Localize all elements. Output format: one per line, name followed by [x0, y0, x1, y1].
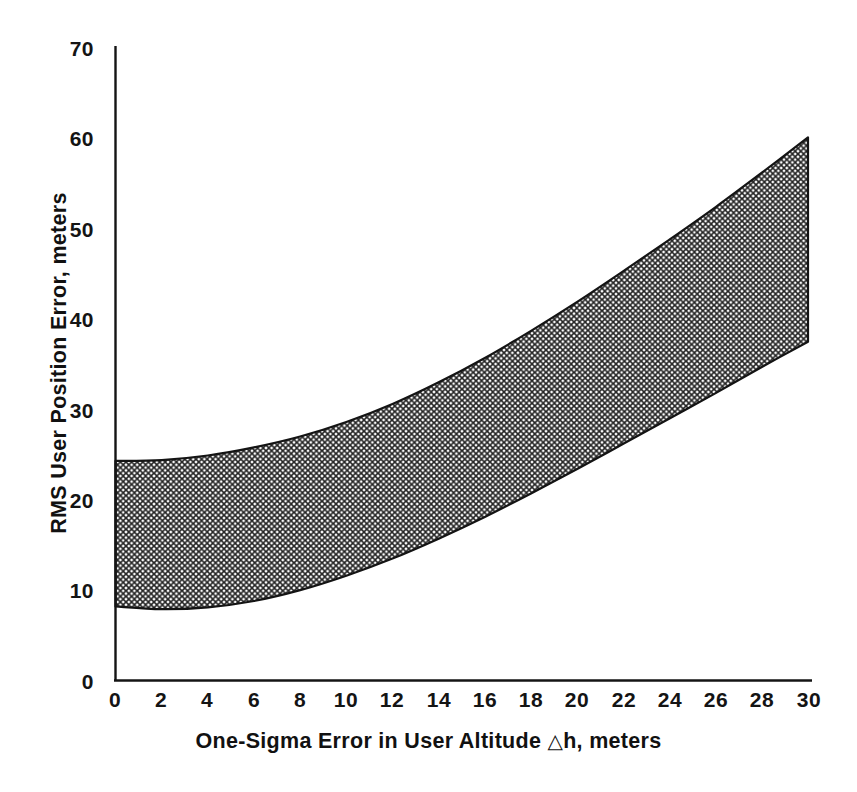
x-axis-title: One-Sigma Error in User Altitude △h, met…: [0, 729, 857, 754]
y-axis-title: RMS User Position Error, meters: [47, 43, 72, 683]
x-axis-title-suffix: h, meters: [563, 729, 661, 753]
x-tick-label-30: 30: [779, 689, 839, 710]
plot-area: [0, 0, 857, 792]
x-axis-title-prefix: One-Sigma Error in User Altitude: [196, 729, 542, 753]
uncertainty-band: [116, 137, 809, 609]
delta-icon: △: [548, 729, 564, 753]
chart-figure: 70 60 50 40 30 20 10 0 0 2 4 6 8 10 12 1…: [0, 0, 857, 792]
